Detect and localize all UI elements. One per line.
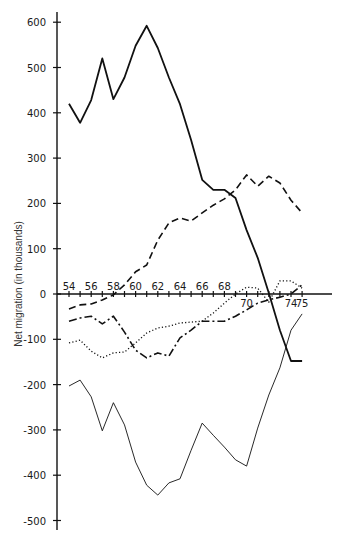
y-tick-label: 400 <box>27 108 46 119</box>
x-tick-label: 62 <box>151 281 164 292</box>
series-dotted <box>69 281 302 358</box>
y-axis-label: Net migration (in thousands) <box>13 221 24 347</box>
x-tick-label: 68 <box>218 281 231 292</box>
x-tick-label: 66 <box>196 281 209 292</box>
line-chart: 6005004003002001000-100-200-300-400-5005… <box>0 0 344 539</box>
x-tick-label: 58 <box>107 281 120 292</box>
x-tick-label: 64 <box>174 281 187 292</box>
series-thick-solid <box>69 26 302 361</box>
series-dash-dot <box>69 285 302 358</box>
y-tick-label: 0 <box>40 289 46 300</box>
x-tick-label: 54 <box>63 281 76 292</box>
y-tick-label: 500 <box>27 63 46 74</box>
y-tick-label: 100 <box>27 244 46 255</box>
series-thin-solid <box>69 314 302 495</box>
y-tick-label: 600 <box>27 17 46 28</box>
series-group <box>69 26 302 495</box>
x-tick-label: 75 <box>296 298 309 309</box>
y-tick-label: -100 <box>23 334 46 345</box>
y-tick-label: -500 <box>23 516 46 527</box>
y-tick-label: -400 <box>23 470 46 481</box>
y-tick-label: 300 <box>27 153 46 164</box>
y-tick-label: -300 <box>23 425 46 436</box>
axes: 6005004003002001000-100-200-300-400-5005… <box>23 12 332 530</box>
x-tick-label: 56 <box>85 281 98 292</box>
x-tick-label: 60 <box>129 281 142 292</box>
y-tick-label: 200 <box>27 198 46 209</box>
y-tick-label: -200 <box>23 380 46 391</box>
